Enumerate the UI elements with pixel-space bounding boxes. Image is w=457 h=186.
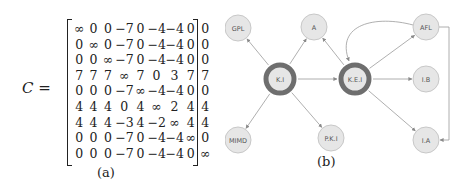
matrix-cell: 0	[101, 37, 115, 52]
matrix-cell: −4	[148, 83, 166, 98]
matrix-label: C =	[22, 79, 51, 97]
matrix-cell: −7	[115, 52, 133, 67]
matrix-cell: 0	[184, 21, 198, 36]
dependency-graph: GPLAK.IK.E.IAFLI.BI.AMIMDP.K.I	[225, 0, 457, 186]
matrix-cell: 3	[166, 68, 184, 83]
matrix-cell: 0	[198, 83, 212, 98]
matrix-cell: 7	[86, 68, 100, 83]
matrix-cell: −4	[166, 130, 184, 145]
matrix-cell: −4	[166, 37, 184, 52]
cost-matrix: ∞00−70−4−4000∞0−70−4−40000∞−70−4−400777∞…	[67, 19, 198, 164]
matrix-cell: 0	[133, 130, 147, 145]
edge-ki-to-gpl	[247, 39, 269, 65]
matrix-cell: 4	[133, 99, 147, 114]
matrix-cell: 4	[101, 99, 115, 114]
matrix-cell: 0	[198, 21, 212, 36]
matrix-cell: 7	[101, 68, 115, 83]
edge-afl-to-kei	[346, 21, 413, 61]
matrix-cell: 0	[184, 52, 198, 67]
node-label: GPL	[232, 25, 245, 33]
matrix-cell: 0	[101, 83, 115, 98]
node-label: K.E.I	[348, 76, 363, 84]
matrix-cell: 4	[184, 115, 198, 130]
matrix-row: 000−7∞−4−400	[72, 83, 212, 98]
matrix-cell: −4	[148, 146, 166, 161]
matrix-cell: ∞	[72, 21, 86, 36]
matrix-cell: 0	[133, 146, 147, 161]
matrix-cell: 0	[86, 83, 100, 98]
matrix-cell: ∞	[184, 130, 198, 145]
node-kei: K.E.I	[341, 65, 369, 93]
matrix-row: 00∞−70−4−400	[72, 52, 212, 67]
matrix-cell: 0	[133, 37, 147, 52]
node-label: P.K.I	[324, 135, 337, 143]
edge-kei-to-a	[323, 38, 344, 65]
matrix-cell: −4	[166, 21, 184, 36]
matrix-cell: −4	[166, 83, 184, 98]
matrix-cell: 7	[133, 68, 147, 83]
matrix-cell: 4	[198, 99, 212, 114]
node-afl: AFL	[413, 14, 439, 40]
matrix-cell: 2	[166, 99, 184, 114]
matrix-cell: ∞	[198, 146, 212, 161]
matrix-cell: 7	[184, 68, 198, 83]
edge-ki-to-a	[290, 39, 306, 64]
edge-ki-to-pki	[292, 93, 322, 128]
matrix-cell: 7	[72, 68, 86, 83]
edge-ki-to-mimd	[246, 94, 270, 129]
matrix-cell: 0	[115, 99, 133, 114]
matrix-cell: 0	[148, 68, 166, 83]
matrix-cell: 4	[72, 115, 86, 130]
node-ki: K.I	[266, 65, 294, 93]
node-label: MIMD	[229, 137, 247, 145]
matrix-cell: 0	[72, 52, 86, 67]
matrix-cell: ∞	[86, 37, 100, 52]
node-label: AFL	[420, 24, 432, 32]
matrix-cell: 4	[86, 99, 100, 114]
matrix-cell: 4	[184, 99, 198, 114]
node-a: A	[301, 14, 327, 40]
matrix-cell: ∞	[166, 115, 184, 130]
matrix-cell: −2	[148, 115, 166, 130]
matrix-cell: 4	[101, 115, 115, 130]
matrix-cell: −3	[115, 115, 133, 130]
matrix-cell: 0	[101, 21, 115, 36]
matrix-cell: −4	[166, 52, 184, 67]
matrix-row: 444−34−2∞44	[72, 115, 212, 130]
matrix-cell: 0	[133, 52, 147, 67]
matrix-row: 44404∞244	[72, 99, 212, 114]
matrix-cell: 4	[133, 115, 147, 130]
matrix-cell: 4	[198, 115, 212, 130]
matrix-panel: C = ∞00−70−4−4000∞0−70−4−40000∞−70−4−400…	[0, 0, 225, 186]
edge-afl-to-ia	[439, 27, 449, 140]
matrix-cell: 0	[72, 146, 86, 161]
matrix-cell: −4	[148, 52, 166, 67]
graph-panel: GPLAK.IK.E.IAFLI.BI.AMIMDP.K.I (b)	[225, 0, 457, 186]
node-label: A	[312, 24, 317, 32]
matrix-cell: −4	[148, 37, 166, 52]
matrix-cell: 7	[198, 68, 212, 83]
matrix-cell: 0	[184, 83, 198, 98]
matrix-cell: −7	[115, 130, 133, 145]
matrix-cell: 0	[86, 21, 100, 36]
matrix-cell: −4	[148, 21, 166, 36]
matrix-cell: −7	[115, 37, 133, 52]
matrix-cell: 0	[101, 146, 115, 161]
edge-kei-to-ia	[369, 91, 416, 131]
matrix-row: 000−70−4−4∞0	[72, 130, 212, 145]
matrix-cell: 0	[72, 130, 86, 145]
node-label: K.I	[276, 76, 284, 84]
edge-kei-to-afl	[370, 35, 415, 68]
matrix-cell: 0	[184, 146, 198, 161]
node-mimd: MIMD	[225, 127, 251, 153]
node-gpl: GPL	[225, 15, 251, 41]
matrix-cell: ∞	[148, 99, 166, 114]
matrix-row: ∞00−70−4−400	[72, 21, 212, 36]
matrix-cell: −4	[148, 130, 166, 145]
node-ib: I.B	[413, 66, 439, 92]
matrix-cell: −4	[166, 146, 184, 161]
matrix-row: 000−70−4−40∞	[72, 146, 212, 161]
node-label: I.B	[422, 76, 430, 84]
matrix-cell: −7	[115, 146, 133, 161]
matrix-cell: 0	[198, 52, 212, 67]
